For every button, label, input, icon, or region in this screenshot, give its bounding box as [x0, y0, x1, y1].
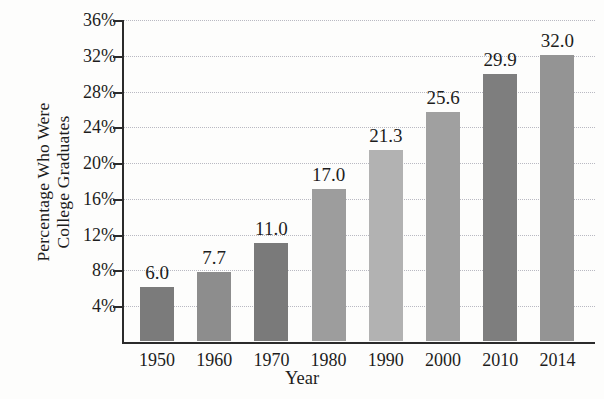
- x-axis-title: Year: [0, 368, 604, 389]
- y-axis-tick-label: 24%: [60, 117, 116, 138]
- x-axis-line: [122, 342, 595, 344]
- y-axis-tick-label: 28%: [60, 81, 116, 102]
- gridline: [124, 163, 595, 164]
- bar-chart: Percentage Who Were College Graduates 4%…: [0, 0, 604, 399]
- y-axis-tickmark: [113, 163, 122, 165]
- bar: [483, 74, 517, 341]
- bar-value-label: 29.9: [484, 49, 517, 71]
- bar: [254, 243, 288, 341]
- bar: [426, 112, 460, 341]
- y-axis-title-line-1: Percentage Who Were: [34, 102, 54, 261]
- gridline: [124, 199, 595, 200]
- y-axis-tick-label: 16%: [60, 188, 116, 209]
- bar-value-label: 7.7: [202, 247, 226, 269]
- bar-value-label: 11.0: [255, 218, 288, 240]
- y-axis-tickmark: [113, 270, 122, 272]
- bar-value-label: 21.3: [369, 125, 402, 147]
- bar: [540, 55, 574, 341]
- y-axis-tick-label: 36%: [60, 10, 116, 31]
- y-axis-tickmark: [113, 127, 122, 129]
- gridline: [124, 306, 595, 307]
- bar: [312, 189, 346, 341]
- gridline: [124, 235, 595, 236]
- y-axis-tick-label: 20%: [60, 153, 116, 174]
- y-axis-tickmark: [113, 306, 122, 308]
- bar: [140, 287, 174, 341]
- bar: [197, 272, 231, 341]
- y-axis-tick-label: 4%: [60, 296, 116, 317]
- y-axis-tick-label: 12%: [60, 224, 116, 245]
- x-axis-title-text: Year: [285, 368, 319, 389]
- y-axis-tick-label: 32%: [60, 45, 116, 66]
- y-axis-tickmark: [113, 92, 122, 94]
- bar-value-label: 25.6: [426, 87, 459, 109]
- bar: [369, 150, 403, 341]
- gridline: [124, 56, 595, 57]
- bar-value-label: 17.0: [312, 164, 345, 186]
- gridline: [124, 127, 595, 128]
- gridline: [124, 270, 595, 271]
- y-axis-tickmark: [113, 56, 122, 58]
- y-axis-tickmark: [113, 235, 122, 237]
- gridline: [124, 92, 595, 93]
- y-axis-line: [122, 20, 124, 344]
- y-axis-tickmark: [113, 199, 122, 201]
- y-axis-tick-label: 8%: [60, 260, 116, 281]
- y-axis-tick-labels: 4%8%12%16%20%24%28%32%36%: [56, 0, 116, 399]
- bar-value-label: 32.0: [541, 30, 574, 52]
- bar-value-label: 6.0: [145, 262, 169, 284]
- y-axis-tickmark: [113, 20, 122, 22]
- gridline: [124, 20, 595, 21]
- plot-area: 6.07.711.017.021.325.629.932.0 195019601…: [122, 20, 595, 343]
